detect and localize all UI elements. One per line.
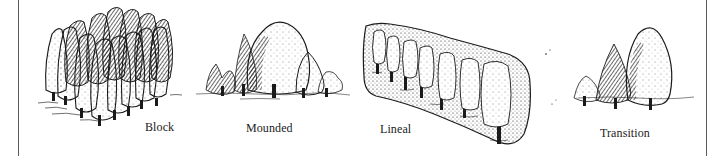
panel-label-lineal: Lineal <box>380 122 411 136</box>
mounded-tree-planting-icon <box>196 22 350 99</box>
panel-label-mounded: Mounded <box>246 121 293 135</box>
block-tree-planting-icon <box>38 7 182 126</box>
transition-tree-planting-icon <box>574 28 694 110</box>
panel-label-transition: Transition <box>600 126 650 140</box>
panel-label-block: Block <box>145 120 174 134</box>
